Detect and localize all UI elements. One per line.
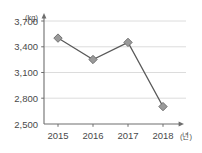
line-chart: (kg) 3,700 3,400 3,100 2,800 2,500 2015 … [0,0,202,153]
x-tick-label: 2016 [82,130,103,141]
y-tick-label: 3,100 [14,67,38,78]
y-tick-label: 2,500 [14,119,38,130]
y-axis [41,13,46,124]
gridlines [44,21,186,98]
chart-canvas: (kg) 3,700 3,400 3,100 2,800 2,500 2015 … [0,0,202,153]
x-axis [44,122,184,127]
x-tick-label: 2015 [47,130,68,141]
data-point [159,102,167,110]
y-tick-label: 2,800 [14,93,38,104]
y-tick-label: 3,400 [14,41,38,52]
x-axis-unit-label: (년) [180,131,192,141]
y-tick-label: 3,700 [14,16,38,27]
data-point [124,38,132,46]
x-tick-label: 2017 [117,130,138,141]
data-point [54,34,62,42]
data-point [89,55,97,63]
x-tick-label: 2018 [152,130,173,141]
